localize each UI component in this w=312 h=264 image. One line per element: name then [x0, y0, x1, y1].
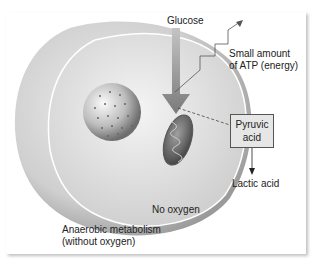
title-label: Anaerobic metabolism — [62, 224, 161, 236]
lactic-arrowhead — [249, 168, 255, 175]
atp-label: Small amount — [229, 48, 290, 60]
glucose-label: Glucose — [167, 15, 204, 27]
pyruvic-label: Pyruvic — [231, 118, 273, 131]
lactic-acid-label: Lactic acid — [232, 178, 279, 190]
nucleus — [83, 83, 141, 141]
title-label-2: (without oxygen) — [62, 236, 135, 248]
pyruvic-label-2: acid — [231, 131, 273, 144]
pyruvic-acid-box: Pyruvic acid — [230, 114, 274, 148]
cytoplasm — [48, 33, 246, 226]
no-oxygen-label: No oxygen — [152, 204, 200, 216]
atp-label-2: of ATP (energy) — [229, 60, 298, 72]
